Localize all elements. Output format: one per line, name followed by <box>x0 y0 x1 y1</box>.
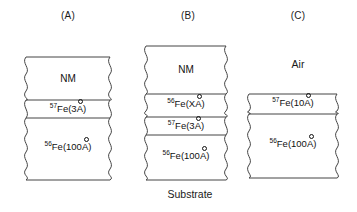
wavy-edge-left-b <box>145 46 148 180</box>
film-stack-figure: (A) (B) (C) NM 57Fe(3A) 56Fe(100A) <box>0 0 357 212</box>
stack-linework-b <box>140 41 232 186</box>
panel-caption-c: (C) <box>270 10 326 21</box>
panel-caption-a: (A) <box>40 10 96 21</box>
stack-diagram-b: NM 56Fe(XA) 57Fe(3A) 56Fe(100A) <box>140 41 232 186</box>
panel-caption-b: (B) <box>160 10 216 21</box>
stack-linework-c <box>243 89 343 186</box>
wavy-edge-left-c <box>248 94 251 178</box>
wavy-edge-right-c <box>336 94 339 178</box>
wavy-edge-right-b <box>225 46 228 180</box>
air-label-c: Air <box>268 58 328 70</box>
stack-diagram-c: 57Fe(10A) 56Fe(100A) <box>243 89 343 186</box>
stack-linework-a <box>20 52 116 186</box>
stack-diagram-a: NM 57Fe(3A) 56Fe(100A) <box>20 52 116 186</box>
substrate-caption: Substrate <box>135 188 245 200</box>
